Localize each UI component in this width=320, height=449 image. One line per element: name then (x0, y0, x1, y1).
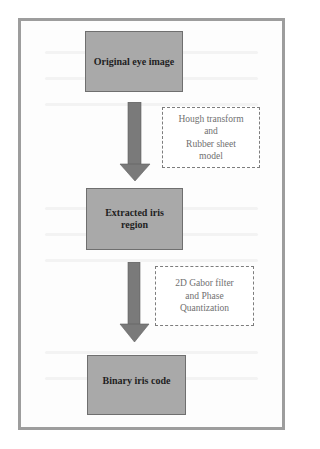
step-label: Extracted iris region (101, 207, 168, 231)
down-arrow-icon (119, 102, 151, 182)
step-extracted-iris-region: Extracted iris region (86, 188, 183, 250)
annotation-line: and (178, 125, 243, 138)
annotation-line: model (178, 150, 243, 163)
scan-artifact (45, 103, 258, 106)
annotation-line: 2D Gabor filter (175, 277, 234, 290)
step-label: Binary iris code (103, 375, 171, 387)
scan-artifact (45, 259, 258, 262)
step-label: Original eye image (94, 56, 175, 68)
scan-artifact (45, 351, 258, 354)
annotation-line: Quantization (175, 302, 234, 315)
annotation-line: Hough transform (178, 113, 243, 126)
step-original-eye-image: Original eye image (85, 31, 183, 92)
down-arrow-icon (119, 262, 151, 343)
annotation-line: Rubber sheet (178, 138, 243, 151)
annotation-hough-transform: Hough transform and Rubber sheet model (162, 107, 260, 168)
annotation-gabor-filter: 2D Gabor filter and Phase Quantization (155, 266, 254, 326)
step-binary-iris-code: Binary iris code (87, 355, 186, 415)
annotation-line: and Phase (175, 290, 234, 303)
